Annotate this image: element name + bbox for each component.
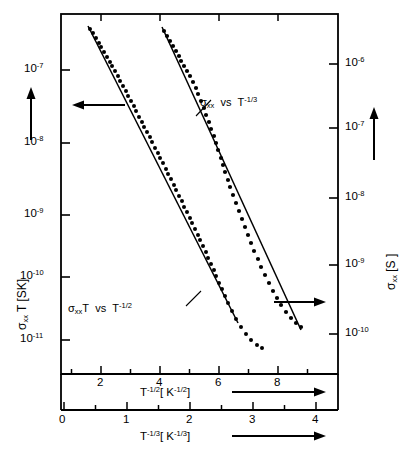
data-point	[172, 183, 176, 187]
left-axis-ticks	[61, 70, 70, 340]
data-point	[182, 64, 186, 68]
data-point	[256, 257, 260, 261]
right-tick-label-3: 10-9	[345, 257, 364, 269]
x-upper-axis-ticks	[72, 366, 308, 374]
data-point	[214, 141, 218, 145]
left-tick-label-0: 10-7	[24, 62, 43, 74]
data-point	[243, 225, 247, 229]
data-point	[165, 34, 169, 38]
data-point	[108, 60, 112, 64]
data-point	[223, 294, 227, 298]
data-point	[219, 156, 223, 160]
data-point	[153, 146, 157, 150]
data-point	[105, 55, 109, 59]
data-point	[140, 120, 144, 124]
right-axis-label-arrow	[370, 107, 379, 160]
data-point	[231, 193, 235, 197]
left-tick-label-4: 10-11	[20, 332, 43, 344]
data-point	[226, 178, 230, 182]
data-point	[158, 156, 162, 160]
figure-canvas: 10-7 10-8 10-9 10-10 10-11 10-6 10-7 10-…	[0, 0, 404, 467]
right-axis-ticks	[329, 64, 338, 334]
data-point	[255, 343, 259, 347]
data-point	[121, 84, 125, 88]
data-point	[188, 74, 192, 78]
data-point	[198, 238, 202, 242]
x-lower-axis-ticks	[64, 402, 316, 410]
x-lower-tick-label-4: 4	[312, 414, 318, 426]
data-point	[124, 89, 128, 93]
data-point	[234, 201, 238, 205]
data-point	[88, 27, 92, 31]
data-point	[94, 36, 98, 40]
data-point	[177, 54, 181, 58]
data-point	[174, 188, 178, 192]
data-point	[294, 321, 298, 325]
data-point	[179, 59, 183, 63]
data-point	[226, 301, 230, 305]
data-point	[161, 161, 165, 165]
data-point	[193, 227, 197, 231]
x-lower-label-arrow	[232, 432, 326, 441]
x-lower-tick-label-0: 0	[59, 414, 65, 426]
data-point	[204, 250, 208, 254]
data-point	[182, 205, 186, 209]
right-tick-label-2: 10-8	[345, 190, 364, 202]
annotation-left-curve: σxxT vs T-1/2	[68, 302, 132, 315]
right-tick-label-1: 10-7	[345, 120, 364, 132]
data-point	[185, 210, 189, 214]
data-point	[240, 217, 244, 221]
right-tick-label-0: 10-6	[345, 56, 364, 68]
left-tick-label-2: 10-9	[24, 207, 43, 219]
data-point	[216, 148, 220, 152]
data-point	[191, 80, 195, 84]
x-upper-label-arrow	[232, 388, 326, 397]
data-point	[209, 127, 213, 131]
data-point	[212, 134, 216, 138]
x-upper-axis-title: T-1/2[ K-1/2]	[140, 386, 190, 398]
data-point	[150, 140, 154, 144]
data-point	[260, 346, 264, 350]
data-point	[223, 170, 227, 174]
data-point	[166, 172, 170, 176]
data-point	[217, 281, 221, 285]
data-point	[113, 69, 117, 73]
data-point	[207, 120, 211, 124]
data-point	[177, 194, 181, 198]
data-point	[209, 262, 213, 266]
data-point	[237, 209, 241, 213]
left-axis-label-arrow	[27, 87, 36, 140]
plot-svg	[0, 0, 404, 467]
x-lower-tick-label-2: 2	[186, 414, 192, 426]
data-point	[239, 325, 243, 329]
data-point	[188, 216, 192, 220]
data-point	[91, 31, 95, 35]
data-point	[102, 50, 106, 54]
annotation-right-curve: σxx vs T-1/3	[200, 96, 257, 109]
data-point	[234, 317, 238, 321]
right-axis-title: σxx [S ]	[385, 254, 398, 290]
data-point	[204, 113, 208, 117]
data-point	[214, 274, 218, 278]
data-point	[275, 296, 279, 300]
data-point	[171, 44, 175, 48]
data-point	[169, 177, 173, 181]
data-point	[299, 325, 303, 329]
data-point	[185, 69, 189, 73]
data-point	[249, 241, 253, 245]
data-point	[148, 135, 152, 139]
data-point	[162, 29, 166, 33]
data-point	[228, 185, 232, 189]
data-point	[230, 309, 234, 313]
data-point	[249, 338, 253, 342]
data-point	[196, 233, 200, 237]
fit-line-right-series	[162, 27, 301, 330]
data-point	[174, 49, 178, 53]
top-axis-ticks	[101, 14, 278, 21]
data-point	[164, 167, 168, 171]
x-lower-tick-label-3: 3	[249, 414, 255, 426]
fit-line-left-series	[88, 26, 238, 323]
data-point	[246, 233, 250, 237]
data-point	[259, 265, 263, 269]
data-point	[289, 316, 293, 320]
